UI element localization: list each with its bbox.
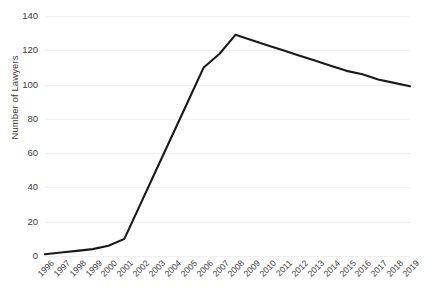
y-tick-label: 60 [0, 147, 38, 158]
y-tick-label: 80 [0, 112, 38, 123]
series-line [45, 16, 410, 256]
y-tick-label: 40 [0, 181, 38, 192]
gridline [45, 256, 410, 257]
plot-area [45, 16, 410, 256]
y-tick-label: 120 [0, 44, 38, 55]
y-tick-label: 0 [0, 250, 38, 261]
x-axis-tick-labels: 1996199719981999200020012002200320042005… [45, 258, 410, 297]
line-chart: Number of Lawyers 020406080100120140 199… [0, 0, 427, 297]
y-tick-label: 20 [0, 215, 38, 226]
y-tick-label: 140 [0, 10, 38, 21]
series-polyline [45, 35, 410, 254]
y-tick-label: 100 [0, 78, 38, 89]
